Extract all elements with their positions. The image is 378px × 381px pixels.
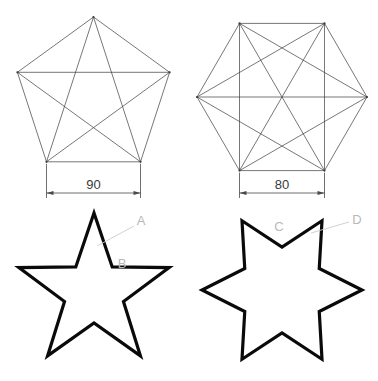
hexagon-diagonals [197, 23, 367, 170]
dimension-arrowhead [47, 191, 54, 195]
vertex-dot [323, 170, 325, 172]
pentagon-diagonals [17, 17, 169, 162]
six-pointed-star-outline [202, 221, 362, 360]
six-pointed-star-group: C D [202, 212, 362, 359]
pentagon-figure-group: 90 [16, 16, 170, 198]
pentagon-dimension-label: 90 [86, 177, 100, 192]
construction-diagonal [17, 72, 140, 162]
callout-label-c: C [274, 219, 283, 234]
hexagon-dimension-label: 80 [275, 177, 289, 192]
construction-diagonal [197, 97, 325, 171]
vertex-dot [92, 16, 94, 18]
callout-label-a: A [137, 213, 146, 228]
vertex-dot [16, 71, 18, 73]
pentagon-outline [17, 17, 169, 162]
vertex-dot [366, 96, 368, 98]
vertex-dot [238, 22, 240, 24]
vertex-dot [139, 161, 141, 163]
vertex-dot [238, 170, 240, 172]
construction-diagonal [47, 72, 170, 162]
five-pointed-star-group: A B [19, 213, 169, 356]
vertex-dot [169, 71, 171, 73]
vertex-dot [323, 22, 325, 24]
dimension-arrowhead [240, 191, 247, 195]
callout-label-b: B [118, 256, 127, 271]
callout-label-d: D [352, 212, 361, 227]
construction-diagonal [94, 17, 141, 162]
vertex-dot [196, 96, 198, 98]
drawing-sheet: 90 80 A B C D [0, 0, 378, 381]
vertex-dot [45, 161, 47, 163]
dimension-arrowhead [318, 191, 325, 195]
dimension-arrowhead [134, 191, 141, 195]
technical-drawing-canvas: 90 80 A B C D [0, 0, 378, 381]
construction-diagonal [47, 17, 94, 162]
five-pointed-star-outline [19, 213, 169, 356]
hexagon-figure-group: 80 [196, 22, 368, 198]
